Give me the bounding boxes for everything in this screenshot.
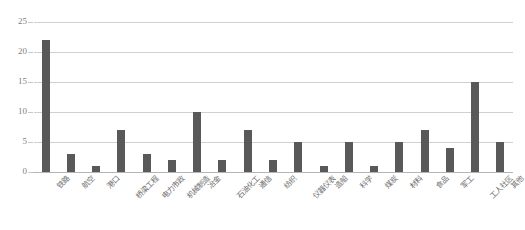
bar	[471, 82, 479, 172]
y-axis-tick-mark	[28, 142, 33, 143]
x-axis-tick-label: 桥梁工程	[135, 174, 161, 200]
x-axis-tick-label: 煤炭	[383, 174, 399, 190]
y-axis-line	[33, 22, 34, 172]
x-axis-tick-label: 纺织	[282, 174, 298, 190]
x-axis-tick-label: 其他	[509, 174, 525, 190]
x-axis-tick-labels: 铁路航空港口桥梁工程电力市政机械制造冶金石油化工通信纺织仪器仪表造船科学煤炭材料…	[33, 174, 513, 230]
x-axis-tick-label: 工人社区	[488, 174, 514, 200]
bar	[42, 40, 50, 172]
x-axis-tick-label: 航空	[80, 174, 96, 190]
y-axis-tick-mark	[28, 52, 33, 53]
x-axis-tick-label: 冶金	[206, 174, 222, 190]
bar	[117, 130, 125, 172]
y-axis-tick-label: 15	[5, 77, 27, 86]
gridline	[33, 172, 513, 173]
y-axis-tick-mark	[28, 22, 33, 23]
y-axis-tick-labels: 0510152025	[0, 0, 27, 230]
y-axis-tick-label: 20	[5, 47, 27, 56]
x-axis-tick-label: 电力市政	[160, 174, 186, 200]
bar	[67, 154, 75, 172]
bar	[269, 160, 277, 172]
bar	[395, 142, 403, 172]
x-axis-tick-label: 食品	[434, 174, 450, 190]
bar	[193, 112, 201, 172]
bar	[92, 166, 100, 172]
bar	[370, 166, 378, 172]
y-axis-tick-label: 10	[5, 107, 27, 116]
y-axis-tick-mark	[28, 172, 33, 173]
x-axis-tick-label: 机械制造	[185, 174, 211, 200]
y-axis-tick-label: 5	[5, 137, 27, 146]
y-axis-tick-label: 25	[5, 17, 27, 26]
x-axis-tick-label: 材料	[408, 174, 424, 190]
x-axis-tick-label: 石油化工	[236, 174, 262, 200]
bar	[446, 148, 454, 172]
y-axis-tick-label: 0	[5, 167, 27, 176]
bar	[294, 142, 302, 172]
bars-layer	[33, 22, 513, 172]
bar	[244, 130, 252, 172]
bar	[320, 166, 328, 172]
x-axis-tick-label: 仪器仪表	[311, 174, 337, 200]
y-axis-tick-mark	[28, 112, 33, 113]
plot-area	[33, 22, 513, 172]
bar	[421, 130, 429, 172]
bar	[496, 142, 504, 172]
y-axis-tick-mark	[28, 82, 33, 83]
x-axis-tick-label: 军工	[459, 174, 475, 190]
bar-chart: 0510152025 铁路航空港口桥梁工程电力市政机械制造冶金石油化工通信纺织仪…	[0, 0, 525, 230]
bar	[143, 154, 151, 172]
bar	[218, 160, 226, 172]
x-axis-tick-label: 造船	[333, 174, 349, 190]
x-axis-tick-label: 港口	[105, 174, 121, 190]
x-axis-tick-label: 科学	[358, 174, 374, 190]
x-axis-tick-label: 通信	[257, 174, 273, 190]
x-axis-tick-label: 铁路	[55, 174, 71, 190]
bar	[168, 160, 176, 172]
bar	[345, 142, 353, 172]
